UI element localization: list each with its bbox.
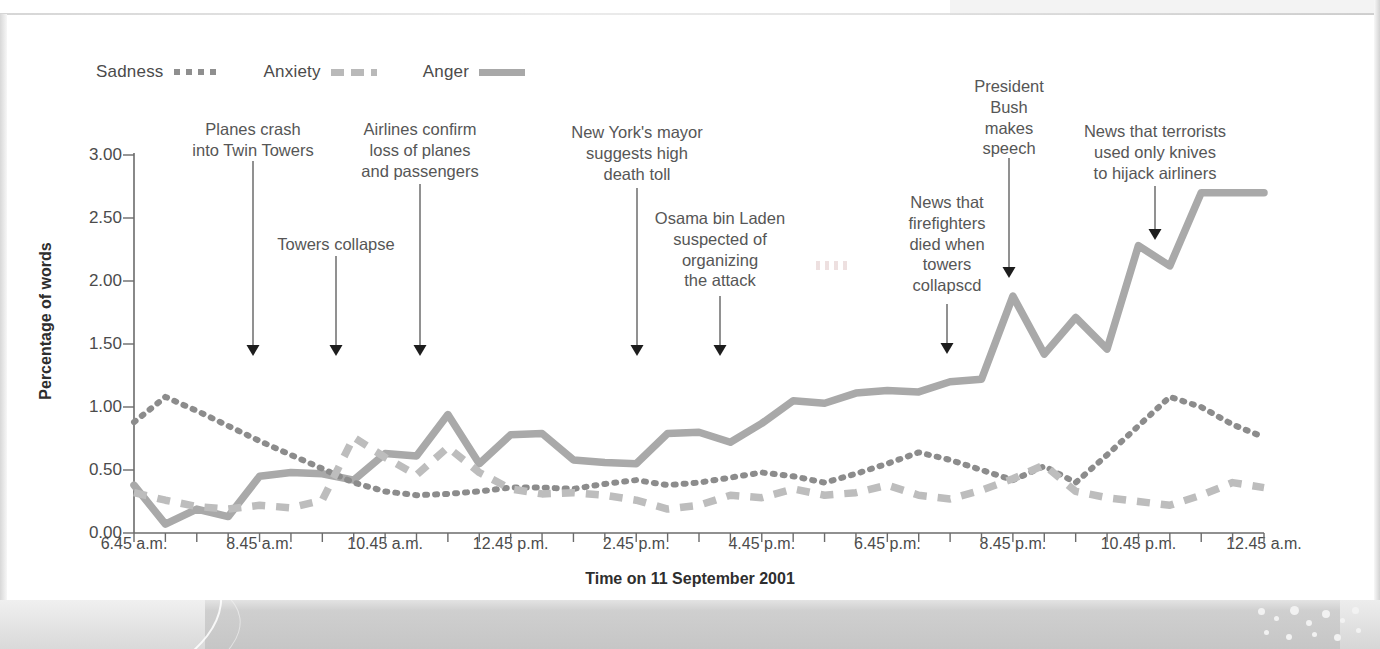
annotation-label: Towers collapse xyxy=(277,234,394,255)
scan-artifact-bottom-band xyxy=(0,600,1380,649)
scan-smudge-artifact xyxy=(816,261,852,270)
annotation-label: News that firefighters died when towers … xyxy=(908,192,985,296)
annotation-label: News that terrorists used only knives to… xyxy=(1084,121,1226,183)
scan-artifact-top-rule xyxy=(0,13,1380,15)
annotation-label: Planes crash into Twin Towers xyxy=(192,119,313,161)
page-canvas: Sadness Anxiety Anger Percentage of word… xyxy=(0,0,1380,649)
annotation-layer: Planes crash into Twin TowersTowers coll… xyxy=(0,16,1380,596)
annotation-label: Airlines confirm loss of planes and pass… xyxy=(361,119,478,181)
annotation-label: President Bush makes speech xyxy=(974,76,1044,159)
annotation-label: Osama bin Laden suspected of organizing … xyxy=(655,208,785,291)
annotation-label: New York's mayor suggests high death tol… xyxy=(571,122,703,184)
chart-figure: Sadness Anxiety Anger Percentage of word… xyxy=(0,16,1380,596)
